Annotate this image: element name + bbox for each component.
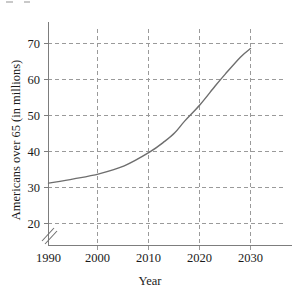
axis-break-marks [42,228,57,244]
line-chart: 70 60 50 40 30 20 1990 2000 2010 2020 20… [0,0,297,293]
page-scan-artifact [6,1,30,3]
vertical-gridlines [98,29,251,250]
xtick-label-1990: 1990 [36,251,61,265]
x-axis-title: Year [138,274,162,288]
horizontal-gridlines [48,44,286,224]
xtick-label-2000: 2000 [85,251,110,265]
y-axis-tick-labels: 70 60 50 40 30 20 [28,37,41,231]
xtick-label-2020: 2020 [187,251,212,265]
y-axis-ticks [44,44,48,224]
chart-figure: 70 60 50 40 30 20 1990 2000 2010 2020 20… [0,0,297,293]
ytick-label-20: 20 [28,217,41,231]
ytick-label-50: 50 [28,109,41,123]
y-axis-title: Americans over 65 (in millions) [9,60,23,220]
ytick-label-70: 70 [28,37,41,51]
ytick-label-40: 40 [28,145,41,159]
axes [48,22,292,246]
xtick-label-2010: 2010 [136,251,161,265]
ytick-label-60: 60 [28,73,41,87]
ytick-label-30: 30 [28,181,41,195]
x-axis-tick-labels: 1990 2000 2010 2020 2030 [36,251,263,265]
xtick-label-2030: 2030 [238,251,263,265]
y-axis-break-slash-2 [45,231,57,244]
